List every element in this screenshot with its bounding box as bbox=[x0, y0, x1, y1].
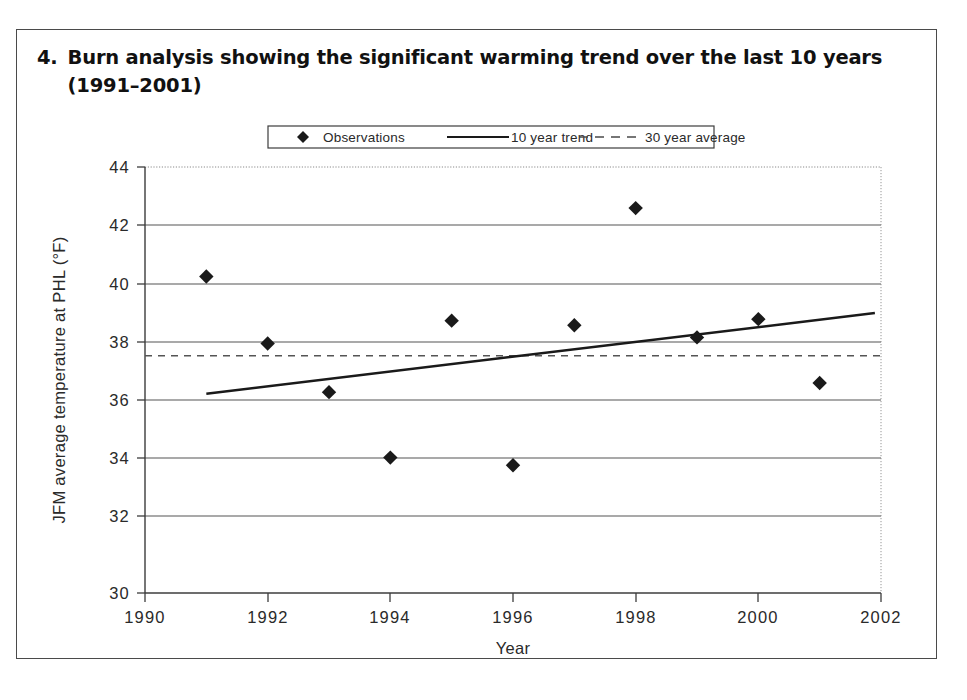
y-tick-label-42: 42 bbox=[109, 216, 130, 234]
x-axis-ticks bbox=[145, 593, 881, 602]
figure-border: 4. Burn analysis showing the significant… bbox=[16, 29, 937, 659]
y-tick-label-34: 34 bbox=[109, 449, 130, 467]
x-tick-label-2002: 2002 bbox=[860, 608, 902, 626]
x-tick-label-1996: 1996 bbox=[492, 608, 534, 626]
data-point-1997 bbox=[567, 318, 581, 332]
y-tick-label-40: 40 bbox=[109, 275, 130, 293]
y-tick-label-32: 32 bbox=[109, 507, 130, 525]
series-10-year-trend bbox=[206, 313, 875, 394]
x-tick-label-2000: 2000 bbox=[737, 608, 779, 626]
chart-container: Observations 10 year trend 30 year avera… bbox=[17, 30, 938, 660]
x-axis-tick-labels: 1990 1992 1994 1996 1998 2000 2002 bbox=[124, 608, 902, 626]
legend-label-observations: Observations bbox=[323, 130, 405, 145]
y-tick-label-30: 30 bbox=[109, 584, 130, 602]
data-point-1992 bbox=[260, 336, 274, 350]
y-axis-title: JFM average temperature at PHL (°F) bbox=[50, 237, 68, 524]
data-point-1994 bbox=[383, 450, 397, 464]
data-point-1998 bbox=[628, 201, 642, 215]
y-axis-tick-labels: 44 42 40 38 36 34 32 30 bbox=[109, 158, 130, 602]
data-point-2000 bbox=[751, 312, 765, 326]
x-tick-label-1994: 1994 bbox=[369, 608, 411, 626]
temperature-trend-chart: Observations 10 year trend 30 year avera… bbox=[17, 30, 938, 660]
data-point-1995 bbox=[444, 313, 458, 327]
y-axis-ticks bbox=[137, 167, 145, 593]
chart-axes bbox=[145, 167, 881, 593]
x-tick-label-1992: 1992 bbox=[247, 608, 289, 626]
y-tick-label-36: 36 bbox=[109, 391, 130, 409]
y-tick-label-38: 38 bbox=[109, 333, 130, 351]
data-point-1996 bbox=[506, 458, 520, 472]
data-point-1993 bbox=[322, 385, 336, 399]
data-point-1991 bbox=[199, 269, 213, 283]
legend-label-30-year-average: 30 year average bbox=[645, 130, 746, 145]
x-axis-title: Year bbox=[496, 639, 531, 657]
series-observations bbox=[199, 201, 827, 473]
x-tick-label-1990: 1990 bbox=[124, 608, 166, 626]
chart-legend: Observations 10 year trend 30 year avera… bbox=[268, 126, 746, 148]
y-tick-label-44: 44 bbox=[109, 158, 130, 176]
data-point-2001 bbox=[812, 376, 826, 390]
x-tick-label-1998: 1998 bbox=[615, 608, 657, 626]
